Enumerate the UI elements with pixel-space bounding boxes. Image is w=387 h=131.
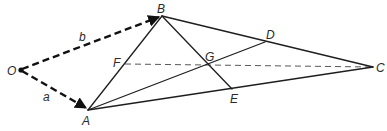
point-label-b: B <box>157 2 165 16</box>
point-label-d: D <box>266 28 275 42</box>
point-label-f: F <box>113 56 121 70</box>
vector-a-arrow <box>22 71 86 108</box>
vector-label-a: a <box>43 90 50 104</box>
origin-point <box>18 67 23 72</box>
vector-label-b: b <box>79 30 86 44</box>
point-label-o: O <box>7 64 16 78</box>
vector-diagram: O A B C D E F G b a <box>0 0 387 131</box>
point-label-e: E <box>230 92 239 106</box>
point-label-c: C <box>376 61 385 75</box>
segment-fc <box>125 64 373 67</box>
vector-b-arrow <box>22 17 159 69</box>
point-label-g: G <box>205 50 214 64</box>
point-label-a: A <box>81 114 90 128</box>
